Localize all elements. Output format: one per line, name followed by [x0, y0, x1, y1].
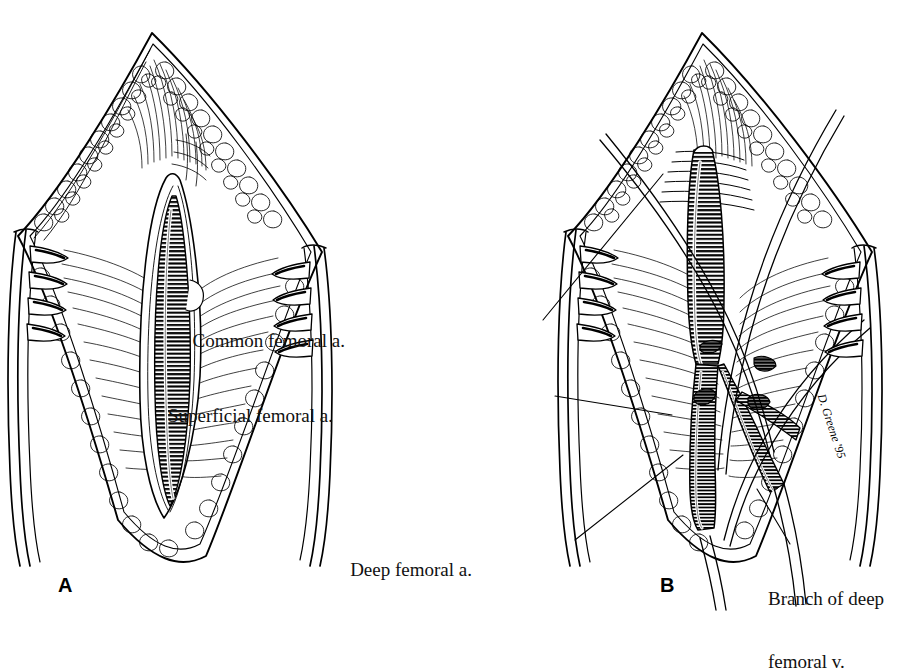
- panel-b-artwork: [558, 33, 882, 610]
- label-superficial-femoral-a: Superficial femoral a.: [149, 384, 333, 448]
- retractor-left-panel-a: [8, 229, 68, 566]
- panel-a-artwork: [8, 33, 332, 566]
- label-deep-femoral-a: Deep femoral a.: [331, 538, 472, 602]
- label-branch-of-deep-femoral-v: Branch of deep femoral v.: [768, 545, 884, 672]
- label-branch-of-deep-femoral-v-line2: femoral v.: [768, 651, 884, 672]
- label-common-femoral-a-text: Common femoral a.: [193, 330, 346, 351]
- label-common-femoral-a: Common femoral a.: [174, 309, 346, 373]
- label-deep-femoral-a-text: Deep femoral a.: [350, 559, 472, 580]
- panel-letter-a: A: [58, 574, 72, 597]
- label-branch-of-deep-femoral-v-line1: Branch of deep: [768, 588, 884, 609]
- panel-letter-b: B: [660, 574, 674, 597]
- label-superficial-femoral-a-text: Superficial femoral a.: [168, 405, 333, 426]
